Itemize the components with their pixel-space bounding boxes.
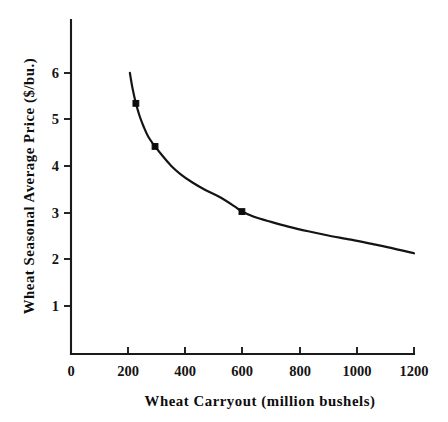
y-tick-label-5: 5 <box>52 111 59 127</box>
y-axis-title: Wheat Seasonal Average Price ($/bu.) <box>21 58 38 315</box>
x-tick-label-800: 800 <box>289 363 311 379</box>
x-tick-label-1000: 1000 <box>343 363 372 379</box>
x-tick-label-0: 0 <box>67 363 74 379</box>
y-tick-label-3: 3 <box>52 205 59 221</box>
y-tick-label-1: 1 <box>52 298 59 314</box>
x-tick-label-400: 400 <box>174 363 196 379</box>
chart-container: 6 5 4 3 2 1 0 200 400 600 800 1 <box>0 0 448 422</box>
data-point-marker <box>133 100 139 106</box>
wheat-price-carryout-chart: 6 5 4 3 2 1 0 200 400 600 800 1 <box>0 0 448 422</box>
y-tick-label-4: 4 <box>52 158 59 174</box>
data-point-marker <box>239 209 245 215</box>
y-tick-label-6: 6 <box>52 65 59 81</box>
x-axis-title: Wheat Carryout (million bushels) <box>145 393 376 410</box>
x-tick-label-600: 600 <box>231 363 253 379</box>
data-point-marker <box>152 144 158 150</box>
y-tick-label-2: 2 <box>52 251 59 267</box>
x-tick-label-200: 200 <box>117 363 139 379</box>
chart-background <box>0 0 448 422</box>
x-tick-label-1200: 1200 <box>400 363 429 379</box>
